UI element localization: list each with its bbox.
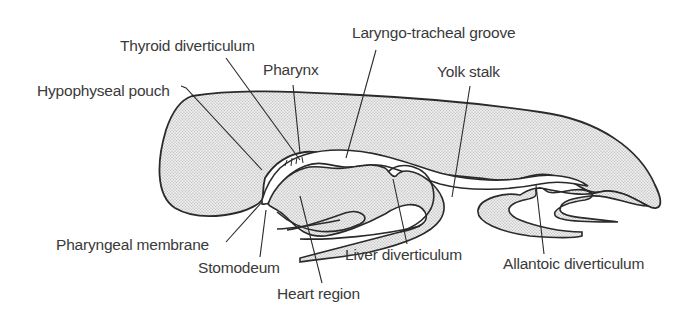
label-pharyngeal-membrane: Pharyngeal membrane (56, 237, 209, 253)
leader-stomodeum (260, 210, 266, 257)
embryo-illustration (0, 0, 697, 331)
label-yolk-stalk: Yolk stalk (437, 64, 500, 80)
label-allantoic-diverticulum: Allantoic diverticulum (503, 256, 644, 272)
label-pharynx: Pharynx (263, 62, 318, 78)
leader-allantoic-diverticulum (536, 185, 544, 254)
embryo-diagram: Thyroid diverticulum Laryngo-tracheal gr… (0, 0, 697, 331)
hindgut-mass (478, 188, 648, 238)
label-thyroid-diverticulum: Thyroid diverticulum (120, 38, 255, 54)
label-stomodeum: Stomodeum (198, 260, 280, 276)
label-heart-region: Heart region (277, 286, 360, 302)
label-liver-diverticulum: Liver diverticulum (345, 247, 462, 263)
label-hypophyseal-pouch: Hypophyseal pouch (37, 83, 170, 99)
label-laryngo-tracheal-groove: Laryngo-tracheal groove (352, 25, 515, 41)
